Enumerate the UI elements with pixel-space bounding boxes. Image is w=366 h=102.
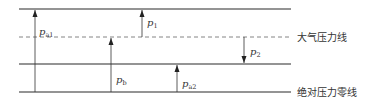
pressure-diagram: pa1 p1 pb p2 pa2 大气压力线 绝对压力零线	[0, 0, 366, 102]
arrow-pa1	[33, 10, 38, 92]
label-pa2: pa2	[182, 78, 196, 91]
atmospheric-line-label: 大气压力线	[297, 31, 347, 43]
label-p1: p1	[147, 17, 158, 30]
absolute-zero-line-label: 绝对压力零线	[297, 86, 357, 98]
arrow-pa2	[175, 65, 180, 92]
arrow-p2	[242, 37, 247, 63]
label-pb: pb	[116, 74, 127, 87]
arrow-pb	[109, 38, 114, 92]
arrow-p1	[140, 10, 145, 37]
label-p2: p2	[250, 46, 261, 59]
